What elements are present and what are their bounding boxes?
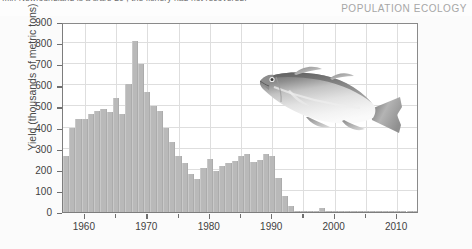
y-axis-tick-label: 900 xyxy=(12,18,52,28)
y-axis-tick xyxy=(57,65,62,66)
y-axis-tick xyxy=(57,192,62,193)
x-axis-tick-label: 2000 xyxy=(311,222,357,232)
cropped-caption-text: ...in Newfoundland is a s/a/e 20 , the f… xyxy=(2,0,247,3)
x-axis-tick xyxy=(240,214,241,218)
y-axis-tick xyxy=(57,44,62,45)
x-axis-tick xyxy=(396,214,397,219)
x-axis-tick xyxy=(302,214,303,218)
x-axis-tick xyxy=(178,214,179,218)
y-axis-tick xyxy=(57,171,62,172)
y-axis-tick-label: 100 xyxy=(12,187,52,197)
x-axis-tick xyxy=(115,214,116,218)
y-axis-tick xyxy=(57,150,62,151)
y-axis-tick-label: 0 xyxy=(12,208,52,218)
x-axis-tick xyxy=(334,214,335,219)
y-axis-tick xyxy=(57,107,62,108)
x-axis-tick xyxy=(271,214,272,219)
x-axis-tick xyxy=(365,214,366,218)
x-axis-tick-label: 1980 xyxy=(186,222,232,232)
plot-area xyxy=(62,23,418,213)
y-axis-tick-label: 300 xyxy=(12,145,52,155)
y-axis-tick xyxy=(57,129,62,130)
y-axis-tick xyxy=(57,86,62,87)
x-axis-tick xyxy=(146,214,147,219)
figure-page: ...in Newfoundland is a s/a/e 20 , the f… xyxy=(0,0,472,249)
section-label: POPULATION ECOLOGY xyxy=(341,3,467,14)
y-axis-tick-label: 200 xyxy=(12,166,52,176)
cod-fish-illustration xyxy=(250,63,403,145)
x-axis-tick xyxy=(84,214,85,219)
x-axis-tick-label: 1960 xyxy=(61,222,107,232)
bar xyxy=(413,211,418,212)
y-axis-tick xyxy=(57,213,62,214)
y-axis-tick-label: 600 xyxy=(12,81,52,91)
y-axis-tick xyxy=(57,23,62,24)
chart-figure: Yield (thousands of metric tons) xyxy=(0,16,472,249)
x-axis-tick xyxy=(209,214,210,219)
y-axis-tick-label: 500 xyxy=(12,102,52,112)
y-axis-tick-label: 800 xyxy=(12,39,52,49)
y-axis-tick-label: 700 xyxy=(12,60,52,70)
x-axis-tick-label: 1970 xyxy=(123,222,169,232)
y-axis-tick-label: 400 xyxy=(12,124,52,134)
x-axis-tick-label: 1990 xyxy=(248,222,294,232)
x-axis-tick-label: 2010 xyxy=(373,222,419,232)
